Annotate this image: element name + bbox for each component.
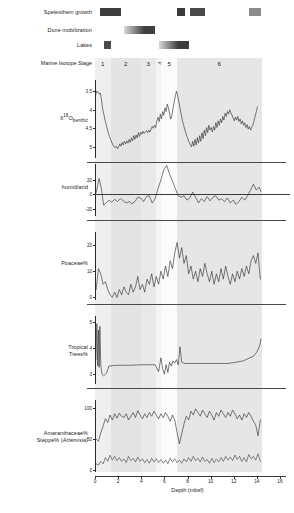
x-axis-title: Depth (mbsf): [171, 487, 203, 493]
panel-amaranth_steppe: 050100: [95, 400, 280, 472]
x-tick-label-7: 14: [254, 479, 259, 484]
event-bar-0-1: [177, 8, 185, 16]
curve-steppe_artemisia: [96, 454, 260, 465]
panel-rule-poaceae: [87, 304, 286, 305]
panel-label-humid_arid: humid/arid: [2, 184, 88, 191]
event-bar-2-1: [159, 41, 189, 49]
mis-stage-6: 6: [218, 60, 221, 67]
panel-rule-tropical_trees: [87, 388, 286, 389]
curve-tropical_trees: [96, 324, 261, 376]
figure-root: Speleothem growthDune mobilizationLakesM…: [0, 0, 294, 513]
y-tick-label-amaranth_steppe-2: 100: [84, 405, 92, 410]
curves-amaranth_steppe: [95, 400, 280, 472]
event-row-label-1: Dune mobilization: [2, 27, 92, 33]
y-tick-label-poaceae-2: 20: [87, 243, 92, 248]
panel-d18o: 3.544.55: [95, 80, 280, 158]
curves-humid_arid: [95, 164, 280, 216]
y-tick-label-tropical_trees-0: 3: [89, 371, 92, 376]
y-tick-label-d18o-2: 4.5: [86, 126, 92, 131]
panel-rule-humid_arid: [87, 220, 286, 221]
curves-poaceae: [95, 232, 280, 300]
y-tick-label-tropical_trees-1: 4: [89, 346, 92, 351]
x-tick-label-5: 10: [208, 479, 213, 484]
panel-label-d18o: δ18Obenthic: [2, 113, 88, 124]
curves-tropical_trees: [95, 316, 280, 384]
panel-label-tropical_trees: TropicalTrees%: [2, 344, 88, 359]
x-tick-label-2: 4: [140, 479, 143, 484]
x-tick-label-3: 6: [163, 479, 166, 484]
curve-poaceae: [96, 242, 260, 297]
y-tick-label-poaceae-1: 10: [87, 269, 92, 274]
mis-stage-1: 1: [101, 60, 104, 67]
event-bar-0-2: [190, 8, 205, 16]
panel-humid_arid: -20020: [95, 164, 280, 216]
x-tick-label-0: 0: [94, 479, 97, 484]
x-tick-label-1: 2: [117, 479, 120, 484]
mis-stage-5: 5: [168, 60, 171, 67]
y-tick-label-amaranth_steppe-0: 0: [89, 468, 92, 473]
y-tick-label-poaceae-0: 0: [89, 295, 92, 300]
panel-tropical_trees: 345: [95, 316, 280, 384]
y-tick-label-d18o-3: 5: [89, 144, 92, 149]
mis-stage-4: 4: [156, 62, 161, 64]
mis-stage-3: 3: [146, 60, 149, 67]
y-tick-label-humid_arid-2: 20: [87, 177, 92, 182]
panel-poaceae: 01020: [95, 232, 280, 300]
panel-label-amaranth_steppe: Amaranthaceae%Steppe% (Artemisia): [2, 430, 88, 445]
mis-stage-2: 2: [124, 60, 127, 67]
event-bar-2-0: [104, 41, 111, 49]
event-bar-1-0: [124, 26, 155, 34]
curve-amaranthaceae: [96, 409, 260, 444]
event-row-label-2: Lakes: [2, 42, 92, 48]
y-tick-label-humid_arid-1: 0: [89, 192, 92, 197]
panel-rule-d18o: [87, 162, 286, 163]
curve-d18o: [96, 91, 258, 149]
curve-humid_arid: [96, 165, 261, 205]
y-tick-label-d18o-0: 3.5: [86, 89, 92, 94]
x-tick-label-6: 12: [231, 479, 236, 484]
event-bar-0-3: [249, 8, 261, 16]
y-tick-label-tropical_trees-2: 5: [89, 320, 92, 325]
curves-d18o: [95, 80, 280, 158]
x-tick-label-8: 16: [277, 479, 282, 484]
x-tick-label-4: 8: [186, 479, 189, 484]
event-row-label-0: Speleothem growth: [2, 9, 92, 15]
y-tick-label-d18o-1: 4: [89, 107, 92, 112]
panel-label-poaceae: Poaceae%: [2, 260, 88, 267]
mis-row-label: Marine Isotope Stage: [2, 60, 92, 66]
event-bar-0-0: [100, 8, 121, 16]
y-tick-label-humid_arid-0: -20: [85, 206, 92, 211]
y-tick-label-amaranth_steppe-1: 50: [87, 436, 92, 441]
